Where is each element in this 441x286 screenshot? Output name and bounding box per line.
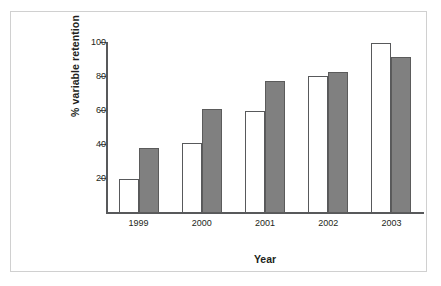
y-tick-label-60: 60 bbox=[74, 106, 106, 115]
bar-1999-series-2 bbox=[139, 148, 159, 213]
bar-2003-series-1 bbox=[371, 43, 391, 213]
x-tick-label-2001: 2001 bbox=[235, 218, 295, 228]
x-tick-label-2003: 2003 bbox=[361, 218, 421, 228]
x-tick-label-2000: 2000 bbox=[172, 218, 232, 228]
bar-2002-series-2 bbox=[328, 72, 348, 213]
y-tick-label-80: 80 bbox=[74, 72, 106, 81]
figure-frame: % variable retention 100 80 60 40 20 199… bbox=[10, 11, 427, 272]
y-tick-label-100: 100 bbox=[74, 38, 106, 47]
bar-2000-series-1 bbox=[182, 143, 202, 213]
y-axis-title: % variable retention bbox=[69, 0, 81, 136]
bar-2002-series-1 bbox=[308, 76, 328, 213]
x-tick-label-2002: 2002 bbox=[298, 218, 358, 228]
y-tick-label-40: 40 bbox=[74, 140, 106, 149]
bar-1999-series-1 bbox=[119, 179, 139, 213]
bar-2003-series-2 bbox=[391, 57, 411, 213]
bar-2000-series-2 bbox=[202, 109, 222, 213]
y-tick-label-20: 20 bbox=[74, 174, 106, 183]
x-axis-title: Year bbox=[107, 253, 423, 265]
bar-2001-series-2 bbox=[265, 81, 285, 213]
x-tick-label-1999: 1999 bbox=[109, 218, 169, 228]
bar-2001-series-1 bbox=[245, 111, 265, 213]
plot-area bbox=[107, 43, 423, 213]
